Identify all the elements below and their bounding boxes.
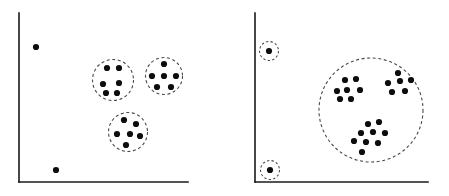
right-cluster-main-ring xyxy=(319,58,423,162)
data-point xyxy=(154,84,160,90)
data-point xyxy=(127,131,133,137)
data-point xyxy=(133,121,139,127)
data-point xyxy=(123,142,129,148)
data-point xyxy=(353,76,359,82)
data-point xyxy=(397,78,403,84)
clustering-figure xyxy=(0,0,449,196)
left-cluster-b xyxy=(146,58,183,95)
data-point xyxy=(337,96,343,102)
data-point xyxy=(121,117,127,123)
right-outlier-bottom xyxy=(261,161,280,180)
data-point xyxy=(370,129,376,135)
data-point xyxy=(363,139,369,145)
data-point xyxy=(161,73,167,79)
data-point xyxy=(365,121,371,127)
data-point xyxy=(385,80,391,86)
data-point xyxy=(53,167,59,173)
data-point xyxy=(161,61,167,67)
data-point xyxy=(100,81,106,87)
data-point xyxy=(351,138,357,144)
data-point xyxy=(173,73,179,79)
data-point xyxy=(33,44,39,50)
data-point xyxy=(267,167,273,173)
data-point xyxy=(104,65,110,71)
data-point xyxy=(376,119,382,125)
data-point xyxy=(342,77,348,83)
left-cluster-a xyxy=(93,60,134,101)
data-point xyxy=(382,130,388,136)
right-subgroup-upper-right xyxy=(385,70,414,95)
scatter-plot-canvas xyxy=(0,0,449,196)
data-point xyxy=(334,88,340,94)
right-outlier-top xyxy=(260,42,279,61)
right-subgroup-lower xyxy=(351,119,388,155)
data-point xyxy=(344,87,350,93)
data-point xyxy=(395,70,401,76)
data-point xyxy=(137,133,143,139)
right-cluster-main xyxy=(319,58,423,162)
data-point xyxy=(402,88,408,94)
data-point xyxy=(149,73,155,79)
left-cluster-c xyxy=(109,113,148,152)
data-point xyxy=(358,130,364,136)
data-point xyxy=(357,87,363,93)
fine-grained-clustering xyxy=(19,13,188,182)
left-cluster-a-ring xyxy=(93,60,134,101)
data-point xyxy=(408,77,414,83)
left-outlier-bottom xyxy=(53,167,59,173)
coarse-grained-clustering xyxy=(255,13,428,182)
data-point xyxy=(359,149,365,155)
left-outlier-top xyxy=(33,44,39,50)
data-point xyxy=(375,140,381,146)
data-point xyxy=(168,84,174,90)
data-point xyxy=(116,80,122,86)
data-point xyxy=(116,65,122,71)
data-point xyxy=(266,48,272,54)
data-point xyxy=(103,90,109,96)
data-point xyxy=(114,90,120,96)
data-point xyxy=(389,89,395,95)
data-point xyxy=(348,96,354,102)
left-panel-axes xyxy=(19,13,188,182)
data-point xyxy=(114,131,120,137)
right-subgroup-upper-left xyxy=(334,76,363,102)
